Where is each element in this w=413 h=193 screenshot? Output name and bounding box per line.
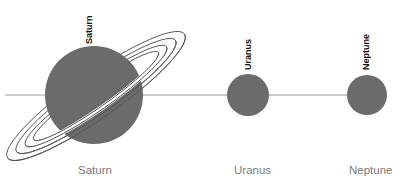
neptune-bottom-label: Neptune <box>349 164 392 176</box>
saturn-bottom-label: Saturn <box>78 164 112 176</box>
uranus-bottom-label: Uranus <box>234 164 271 176</box>
uranus-planet <box>227 74 269 116</box>
neptune-top-label: Neptune <box>361 34 371 70</box>
uranus-top-label: Uranus <box>243 39 253 70</box>
saturn-top-label: Saturn <box>84 15 94 44</box>
neptune-planet <box>347 75 387 115</box>
